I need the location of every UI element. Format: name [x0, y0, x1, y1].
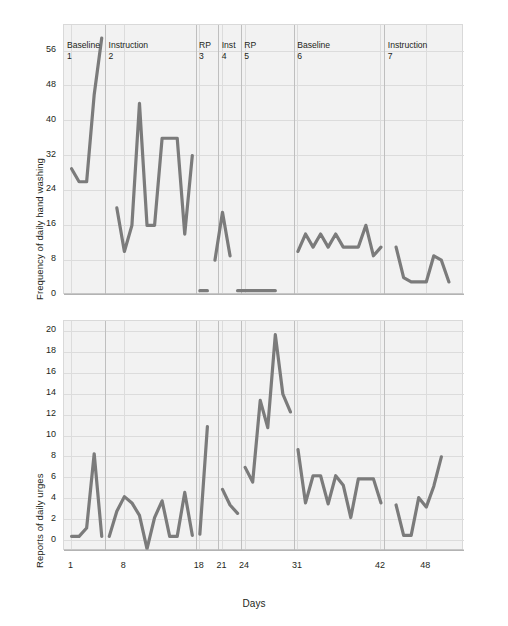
- y-tick-label: 6: [30, 471, 56, 481]
- phase-label-4: Inst4: [222, 40, 236, 61]
- plot-area-top: [63, 24, 463, 294]
- plot-area-bottom: [63, 320, 463, 550]
- phase-name: Baseline: [67, 40, 100, 50]
- phase-label-6: Baseline6: [297, 40, 330, 61]
- y-tick-label: 48: [30, 79, 56, 89]
- y-tick-label: 10: [30, 429, 56, 439]
- figure-root: Frequency of daily hand washing 08162432…: [0, 0, 508, 626]
- x-tick-label: 24: [230, 560, 258, 570]
- x-tick-label: 1: [57, 560, 85, 570]
- y-tick-label: 24: [30, 183, 56, 193]
- plot-svg-bottom: [64, 321, 464, 551]
- y-tick-label: 18: [30, 345, 56, 355]
- y-tick-label: 0: [30, 534, 56, 544]
- x-tick-label: 8: [109, 560, 137, 570]
- y-tick-label: 12: [30, 408, 56, 418]
- phase-name: Instruction: [388, 40, 428, 50]
- phase-name: Instruction: [109, 40, 149, 50]
- phase-name: Inst: [222, 40, 236, 50]
- phase-name: RP: [244, 40, 256, 50]
- y-tick-label: 20: [30, 324, 56, 334]
- phase-label-5: RP5: [244, 40, 256, 61]
- plot-svg-top: [64, 25, 464, 295]
- phase-number: 6: [297, 51, 330, 62]
- y-tick-label: 2: [30, 513, 56, 523]
- y-tick-label: 14: [30, 387, 56, 397]
- phase-name: Baseline: [297, 40, 330, 50]
- phase-number: 7: [388, 51, 428, 62]
- y-tick-label: 0: [30, 288, 56, 298]
- phase-name: RP: [199, 40, 211, 50]
- x-tick-label: 31: [283, 560, 311, 570]
- phase-number: 1: [67, 51, 100, 62]
- y-tick-label: 40: [30, 114, 56, 124]
- chart-panel-hand-washing: Frequency of daily hand washing 08162432…: [0, 0, 508, 318]
- chart-panel-urges: Reports of daily urges 02468101214161820…: [0, 318, 508, 626]
- phase-label-1: Baseline1: [67, 40, 100, 61]
- x-axis-title: Days: [0, 598, 508, 609]
- y-tick-label: 16: [30, 218, 56, 228]
- x-tick-label: 42: [366, 560, 394, 570]
- y-tick-label: 8: [30, 253, 56, 263]
- x-tick-label: 48: [411, 560, 439, 570]
- phase-label-7: Instruction7: [388, 40, 428, 61]
- y-tick-label: 16: [30, 366, 56, 376]
- phase-label-3: RP3: [199, 40, 211, 61]
- phase-label-2: Instruction2: [109, 40, 149, 61]
- y-tick-label: 4: [30, 492, 56, 502]
- phase-number: 3: [199, 51, 211, 62]
- y-tick-label: 8: [30, 450, 56, 460]
- y-tick-label: 32: [30, 149, 56, 159]
- phase-number: 2: [109, 51, 149, 62]
- phase-number: 5: [244, 51, 256, 62]
- y-tick-label: 56: [30, 44, 56, 54]
- y-axis-title-top: Frequency of daily hand washing: [34, 158, 45, 300]
- phase-number: 4: [222, 51, 236, 62]
